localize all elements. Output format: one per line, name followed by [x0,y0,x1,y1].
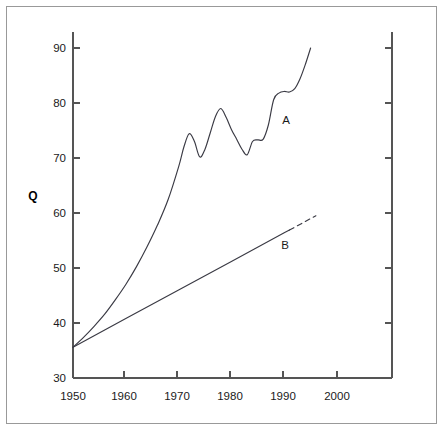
x-tick-label-1960: 1960 [111,390,137,402]
y-axis-title: Q [28,189,37,203]
axes-group [73,32,392,378]
y-tick-label-30: 30 [53,372,66,384]
y-tick-label-70: 70 [53,152,66,164]
series-line-b [73,230,289,347]
x-tick-label-1980: 1980 [217,390,243,402]
y-tick-label-50: 50 [53,262,66,274]
x-tick-label-1950: 1950 [60,390,86,402]
y-tick-label-80: 80 [53,97,66,109]
y-tick-labels: 90 80 70 60 50 40 30 [53,42,66,384]
x-tick-label-1970: 1970 [164,390,190,402]
chart-figure: 90 80 70 60 50 40 30 1950 1960 1970 1980… [0,0,445,432]
series-line-b-projection [289,216,315,230]
y-tick-marks [73,48,80,378]
line-chart-canvas: 90 80 70 60 50 40 30 1950 1960 1970 1980… [0,0,445,432]
y-tick-label-90: 90 [53,42,66,54]
series-annotation-b: B [281,239,289,251]
right-axis-tick-marks [385,48,392,323]
x-tick-marks [124,371,337,378]
x-tick-labels: 1950 1960 1970 1980 1990 2000 [60,390,350,402]
series-line-a [73,48,311,347]
x-tick-label-2000: 2000 [324,390,350,402]
y-tick-label-40: 40 [53,317,66,329]
y-tick-label-60: 60 [53,207,66,219]
x-tick-label-1990: 1990 [270,390,296,402]
series-annotation-a: A [282,114,290,126]
